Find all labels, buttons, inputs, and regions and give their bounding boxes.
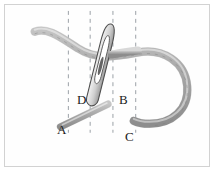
thread-overlap bbox=[112, 51, 138, 55]
figure-plate: A B C D bbox=[4, 4, 210, 167]
figure-frame: A B C D bbox=[0, 0, 214, 171]
label-A: A bbox=[57, 123, 66, 136]
diagram-canvas bbox=[5, 5, 209, 166]
label-C: C bbox=[125, 130, 134, 143]
label-D: D bbox=[77, 93, 86, 106]
label-B: B bbox=[119, 93, 128, 106]
